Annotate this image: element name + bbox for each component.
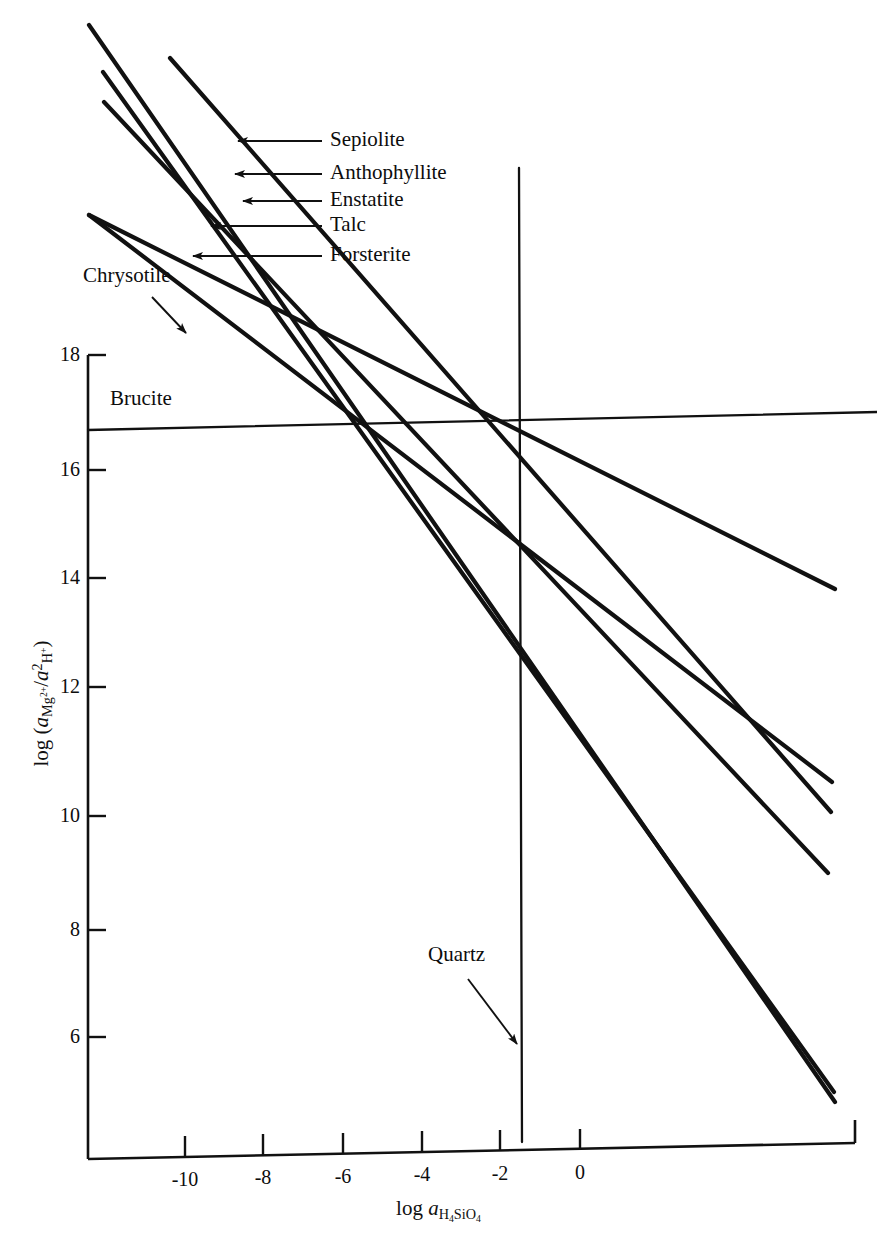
annotation-label-talc: Talc <box>330 214 366 235</box>
y-axis-title-numerator-sub: Mg2+ <box>38 687 54 717</box>
line-quartz <box>519 168 522 1142</box>
annotation-label-brucite: Brucite <box>110 388 172 409</box>
x-tick-label-1: -8 <box>233 1166 293 1189</box>
y-tick-label-6: 6 <box>24 1025 80 1048</box>
figure-canvas: -10 -8 -6 -4 -2 0 18 16 14 12 10 8 6 Sep… <box>0 0 877 1244</box>
annotation-label-enstatite: Enstatite <box>330 189 403 210</box>
line-chrysotile <box>89 215 835 589</box>
y-tick-label-16: 16 <box>24 458 80 481</box>
annotation-label-chrysotile: Chrysotile <box>83 265 171 286</box>
x-tick-label-2: -6 <box>313 1165 373 1188</box>
y-axis-title: log (aMg2+/a2H+) <box>29 573 56 833</box>
x-tick-label-3: -4 <box>392 1163 452 1186</box>
x-axis-title: log aH4SiO4 <box>0 1196 877 1224</box>
annotation-label-forsterite: Forsterite <box>330 244 410 265</box>
y-axis-title-denominator-sub: H+ <box>38 647 54 663</box>
annotation-label-sepiolite: Sepiolite <box>330 129 405 150</box>
annotation-label-quartz: Quartz <box>428 944 485 965</box>
plot-svg <box>0 0 877 1244</box>
annotation-label-anthophyllite: Anthophyllite <box>330 162 447 183</box>
x-axis-title-symbol: a <box>428 1196 439 1220</box>
x-axis-title-prefix: log <box>396 1196 428 1220</box>
y-axis-title-denominator-sup: 2 <box>29 663 45 670</box>
line-enstatite <box>104 102 828 873</box>
y-tick-label-8: 8 <box>24 918 80 941</box>
y-axis-title-numerator-symbol: a <box>29 717 53 728</box>
x-tick-label-5: 0 <box>550 1161 610 1184</box>
axis-frame <box>88 355 855 1159</box>
annotation-arrows <box>152 141 517 1044</box>
line-forsterite <box>89 215 832 782</box>
y-axis-title-suffix: ) <box>29 640 53 647</box>
y-axis-title-prefix: log ( <box>29 727 53 766</box>
line-anthophyllite <box>103 72 834 1092</box>
y-axis-title-separator: / <box>29 681 53 687</box>
arrow-quartz <box>468 979 517 1044</box>
boundary-lines <box>88 25 877 1142</box>
y-tick-marks <box>88 355 106 1037</box>
x-tick-label-0: -10 <box>155 1168 215 1191</box>
x-tick-label-4: -2 <box>470 1162 530 1185</box>
y-axis-title-denominator-symbol: a <box>29 670 53 681</box>
x-axis-title-subscript: H4SiO4 <box>439 1206 481 1222</box>
line-talc <box>170 58 831 812</box>
y-tick-label-18: 18 <box>24 343 80 366</box>
arrow-chrysotile <box>152 297 186 333</box>
